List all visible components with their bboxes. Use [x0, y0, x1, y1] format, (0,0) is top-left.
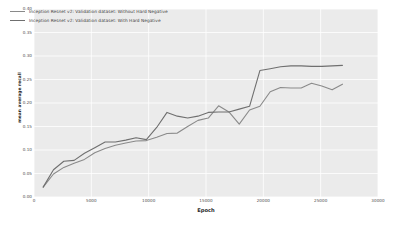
x-tick-label: 5000 [74, 199, 108, 203]
legend-line-swatch [10, 20, 25, 21]
x-tick-label: 25000 [304, 199, 338, 203]
x-tick-label: 30000 [361, 199, 395, 203]
series-line [43, 65, 342, 187]
y-tick-label: 0.05 [10, 172, 32, 176]
legend-item-label: Inception Resnet v2: Validation dataset:… [29, 18, 161, 23]
x-axis-label: Epoch [34, 207, 378, 213]
y-tick-label: 0.35 [10, 31, 32, 35]
legend-item[interactable]: Inception Resnet v2: Validation dataset:… [10, 7, 168, 16]
legend-line-swatch [10, 11, 25, 12]
x-tick-label: 10000 [132, 199, 166, 203]
x-tick-label: 20000 [246, 199, 280, 203]
legend-item-label: Inception Resnet v2: Validation dataset:… [29, 9, 168, 14]
legend-item[interactable]: Inception Resnet v2: Validation dataset:… [10, 16, 168, 25]
series-line [43, 83, 342, 187]
chart-legend: Inception Resnet v2: Validation dataset:… [8, 5, 171, 27]
chart-figure: 0.000.050.100.150.200.250.300.350.40 050… [0, 0, 404, 225]
y-axis-label: mean average recall [17, 43, 22, 153]
x-tick-label: 0 [17, 199, 51, 203]
x-tick-label: 15000 [189, 199, 223, 203]
data-series-lines [34, 9, 378, 197]
plot-area [34, 9, 378, 197]
